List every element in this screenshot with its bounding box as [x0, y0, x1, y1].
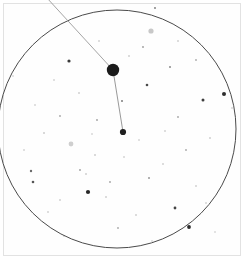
field-star [105, 196, 107, 198]
field-star [98, 40, 100, 42]
field-star [195, 185, 197, 187]
field-star [59, 199, 61, 201]
field-star [135, 214, 137, 216]
marked-targets-group [107, 64, 126, 135]
field-star [94, 154, 96, 156]
field-star [177, 40, 179, 42]
field-star [174, 207, 177, 210]
field-star [53, 79, 55, 81]
field-star [148, 28, 153, 33]
field-of-view-circle [0, 10, 236, 248]
sky-canvas [0, 0, 245, 260]
field-star [47, 211, 49, 213]
field-star [117, 227, 119, 229]
field-star [79, 169, 81, 171]
primary-target [107, 64, 119, 76]
field-star [43, 132, 45, 134]
field-star [67, 59, 70, 62]
field-star [164, 130, 166, 132]
field-star [154, 7, 156, 9]
field-star [231, 107, 233, 109]
field-stars-group [12, 7, 233, 242]
field-star [96, 119, 98, 121]
field-star [30, 170, 32, 172]
field-star [185, 149, 187, 151]
field-star [123, 156, 125, 158]
field-star [12, 75, 14, 77]
field-star [142, 46, 144, 48]
field-star [195, 59, 197, 61]
field-star [128, 55, 130, 57]
field-star [138, 139, 140, 141]
field-star [69, 142, 74, 147]
field-star [209, 137, 211, 139]
field-star [151, 240, 153, 242]
field-star [222, 92, 226, 96]
star-field-chart: Finder chart field of view [0, 0, 245, 260]
field-star [34, 104, 36, 106]
field-star [177, 116, 179, 118]
field-star [169, 66, 171, 68]
field-star [148, 177, 150, 179]
field-star [187, 225, 191, 229]
field-star [202, 99, 205, 102]
field-star [78, 92, 80, 94]
field-star [205, 202, 207, 204]
field-star [214, 231, 216, 233]
field-star [32, 181, 35, 184]
field-star [23, 149, 25, 151]
field-star [121, 100, 123, 102]
field-star [86, 190, 90, 194]
field-star [146, 84, 149, 87]
field-star [91, 133, 93, 135]
field-star [85, 173, 87, 175]
field-star [162, 163, 164, 165]
field-star [109, 181, 111, 183]
field-star [59, 115, 61, 117]
secondary-target [120, 129, 126, 135]
